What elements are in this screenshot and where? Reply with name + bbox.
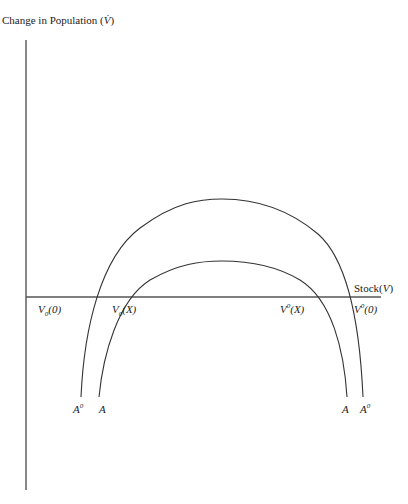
y-axis-title: Change in Population (V̇) xyxy=(2,14,114,27)
intercept-label-v0sup-0: V0(0) xyxy=(354,302,377,316)
population-growth-diagram: Change in Population (V̇) Stock(V) V0(0)… xyxy=(0,0,408,504)
intercept-label-v0-x: V0(X) xyxy=(112,303,137,318)
curve-label-a-left: A xyxy=(98,403,106,415)
curve-label-a0-left: A0 xyxy=(72,402,84,415)
intercept-label-v0sup-x: V0(X) xyxy=(280,302,305,316)
x-axis-label: Stock(V) xyxy=(354,282,393,295)
y-axis-title-text: Change in Population xyxy=(2,14,98,26)
outer-growth-curve-a0 xyxy=(81,199,363,397)
inner-growth-curve-a xyxy=(99,261,347,397)
x-axis-label-text: Stock xyxy=(354,282,380,294)
curve-label-a-right: A xyxy=(341,403,349,415)
intercept-label-v0-0: V0(0) xyxy=(38,303,61,318)
curve-label-a0-right: A0 xyxy=(359,402,371,415)
